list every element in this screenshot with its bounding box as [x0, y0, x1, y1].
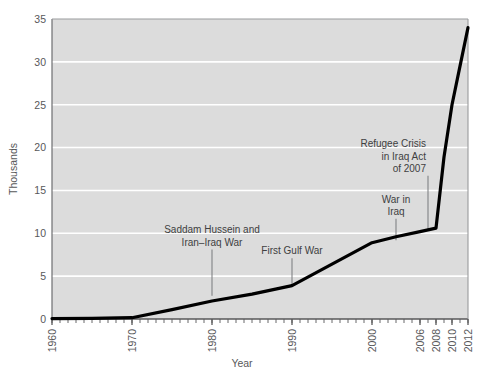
annotation-label-war-in-iraq: War in [382, 194, 411, 205]
x-tick-label: 2000 [366, 329, 378, 353]
annotation-label-refugee-crisis-in-iraq-act: Refugee Crisis [360, 138, 426, 149]
chart-container: 05101520253035 1960197019801990200020062… [0, 0, 484, 378]
annotation-label-saddam-iran-iraq-war: Saddam Hussein and [164, 224, 260, 235]
x-tick-label: 1970 [126, 329, 138, 353]
annotation-label-saddam-iran-iraq-war: Iran–Iraq War [182, 237, 243, 248]
annotation-label-refugee-crisis-in-iraq-act: of 2007 [393, 163, 427, 174]
y-axis-title: Thousands [7, 143, 19, 195]
x-axis-title: Year [231, 357, 253, 369]
y-tick-label: 20 [34, 141, 46, 153]
y-tick-label: 0 [40, 313, 46, 325]
y-tick-label: 30 [34, 56, 46, 68]
y-tick-label: 15 [34, 184, 46, 196]
annotation-label-refugee-crisis-in-iraq-act: in Iraq Act [382, 151, 427, 162]
y-tick-label: 35 [34, 13, 46, 25]
x-tick-label: 2006 [414, 329, 426, 353]
y-tick-label: 5 [40, 270, 46, 282]
y-tick-label: 10 [34, 227, 46, 239]
x-tick-label: 1960 [46, 329, 58, 353]
x-tick-label: 2008 [430, 329, 442, 353]
x-tick-label: 2012 [462, 329, 474, 353]
y-tick-label: 25 [34, 99, 46, 111]
annotation-label-first-gulf-war: First Gulf War [261, 245, 323, 256]
refugee-admissions-line-chart: 05101520253035 1960197019801990200020062… [0, 0, 484, 378]
x-tick-label: 2010 [446, 329, 458, 353]
annotation-label-war-in-iraq: Iraq [387, 206, 404, 217]
x-tick-label: 1980 [206, 329, 218, 353]
x-tick-label: 1990 [286, 329, 298, 353]
